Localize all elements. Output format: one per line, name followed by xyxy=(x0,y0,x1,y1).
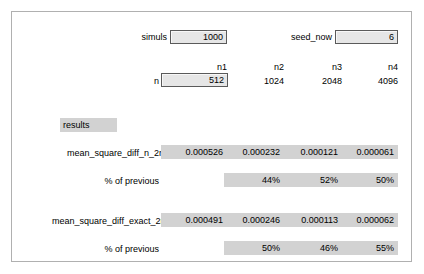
row-label-n: n xyxy=(132,74,159,88)
pct2-n3-value: 46% xyxy=(284,241,342,255)
simuls-input[interactable]: 1000 xyxy=(170,30,227,44)
msd-exact2n-n4-value: 0.000062 xyxy=(342,213,398,227)
row-label-mean-square-diff-n-2n: mean_square_diff_n_2n xyxy=(67,146,159,160)
msd-exact2n-n1-value: 0.000491 xyxy=(161,213,227,227)
column-header-n4: n4 xyxy=(343,60,398,74)
n4-value: 4096 xyxy=(343,74,398,88)
msd-exact2n-n2-value: 0.000246 xyxy=(227,213,284,227)
simuls-label: simuls xyxy=(107,30,167,44)
seed-now-input[interactable]: 6 xyxy=(335,30,398,44)
column-header-n3: n3 xyxy=(287,60,342,74)
row-label-mean-square-diff-exact-2n: mean_square_diff_exact_2n xyxy=(52,214,159,228)
pct1-n3-value: 52% xyxy=(284,173,342,187)
pct1-n4-value: 50% xyxy=(342,173,398,187)
column-header-n1: n1 xyxy=(172,60,227,74)
column-header-n2: n2 xyxy=(229,60,284,74)
results-tag: results xyxy=(60,118,117,132)
row-label-pct-of-previous-2: % of previous xyxy=(67,242,159,256)
n2-value: 1024 xyxy=(229,74,284,88)
pct2-n2-value: 50% xyxy=(224,241,284,255)
n3-value: 2048 xyxy=(287,74,342,88)
msd-n2n-n1-value: 0.000526 xyxy=(161,145,227,159)
pct1-n2-value: 44% xyxy=(224,173,284,187)
row-label-pct-of-previous-1: % of previous xyxy=(67,174,159,188)
msd-n2n-n2-value: 0.000232 xyxy=(227,145,284,159)
msd-n2n-n3-value: 0.000121 xyxy=(284,145,342,159)
spreadsheet-area: simuls 1000 seed_now 6 n1 n2 n3 n4 n 512… xyxy=(12,12,411,261)
seed-now-label: seed_now xyxy=(267,30,332,44)
n1-input[interactable]: 512 xyxy=(161,73,228,87)
msd-exact2n-n3-value: 0.000113 xyxy=(284,213,342,227)
msd-n2n-n4-value: 0.000061 xyxy=(342,145,398,159)
pct2-n4-value: 55% xyxy=(342,241,398,255)
worksheet-panel: simuls 1000 seed_now 6 n1 n2 n3 n4 n 512… xyxy=(11,11,412,262)
